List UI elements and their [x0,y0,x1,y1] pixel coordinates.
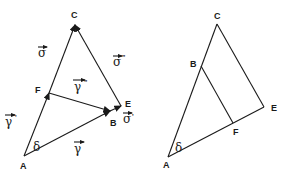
segment-BF [201,66,233,123]
svg-text:": " [84,79,87,86]
svg-text:γ: γ [74,142,81,156]
angle-label-delta: δ [33,140,40,154]
point-label-C: C [214,11,221,21]
vector-gamma-dd-FB [49,93,110,111]
segment-AE [168,107,264,157]
point-label-A: A [20,161,27,171]
svg-text:σ: σ [113,55,121,69]
vector-sigma-FC [49,25,75,93]
point-label-F: F [233,127,239,137]
point-label-E: E [125,99,131,109]
svg-text:': ' [15,114,17,121]
vector-label-sigma-prime: σ ' [123,112,134,126]
right-figure: C B E F A δ [163,11,277,170]
point-label-A: A [163,160,170,170]
vector-label-gamma-double-prime: γ " [73,79,87,94]
vector-label-gamma-prime: γ ' [5,114,17,129]
segment-AC [168,24,217,157]
vector-sigma-prime-BE [110,106,121,111]
point-label-C: C [71,10,78,20]
svg-text:σ: σ [123,112,131,126]
point-label-B: B [110,118,117,128]
point-label-B: B [190,59,197,69]
svg-text:γ: γ [5,115,12,129]
svg-text:σ: σ [38,46,46,60]
svg-text:γ: γ [74,80,81,94]
vector-label-gamma: γ [74,142,84,156]
point-label-F: F [35,85,41,95]
left-figure: C F E B A δ σ σ " γ " γ ' γ [5,10,134,171]
vector-label-sigma-double-prime: σ " [113,54,125,69]
svg-text:': ' [132,113,134,120]
vector-label-sigma: σ [38,46,47,60]
angle-label-delta: δ [175,141,182,155]
point-label-E: E [271,103,277,113]
diagram-canvas: C F E B A δ σ σ " γ " γ ' γ [0,0,292,178]
segment-CE [217,24,264,107]
svg-text:": " [122,54,125,61]
